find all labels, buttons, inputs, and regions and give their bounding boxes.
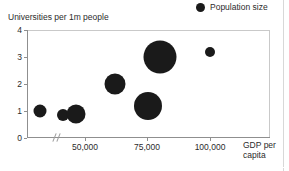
x-axis-line [27, 137, 270, 138]
page-border-bottom [0, 167, 289, 168]
plot-area: 0 1 2 3 4 50,000 75,000 100,000 [27, 30, 270, 138]
y-tick-1 [24, 111, 27, 112]
bubble-point[interactable] [134, 92, 162, 120]
x-tick-label-50000: 50,000 [72, 143, 98, 152]
bubble-point[interactable] [67, 104, 86, 123]
chart-legend: Population size [196, 0, 268, 15]
y-tick-label-3: 3 [17, 53, 22, 62]
y-tick-3 [24, 57, 27, 58]
x-tick-100000 [210, 138, 211, 141]
x-tick-50000 [85, 138, 86, 141]
chart-canvas: Population size Universities per 1m peop… [0, 0, 289, 171]
plot-frame-top [27, 30, 270, 31]
x-tick-75000 [147, 138, 148, 141]
y-axis-line [27, 30, 28, 138]
y-axis-title: Universities per 1m people [8, 12, 109, 22]
y-tick-0 [24, 138, 27, 139]
y-tick-label-2: 2 [17, 80, 22, 89]
x-tick-label-75000: 75,000 [134, 143, 160, 152]
y-tick-2 [24, 84, 27, 85]
y-tick-label-1: 1 [17, 107, 22, 116]
y-tick-label-4: 4 [17, 26, 22, 35]
x-axis-title: GDP per capita [243, 140, 287, 160]
bubble-point[interactable] [205, 47, 215, 57]
bubble-point[interactable] [34, 105, 47, 118]
bubble-point[interactable] [144, 41, 177, 74]
y-tick-4 [24, 30, 27, 31]
x-axis-break-icon [52, 133, 62, 142]
legend-label-population-size: Population size [210, 3, 268, 12]
bubble-point[interactable] [105, 74, 126, 95]
x-tick-label-100000: 100,000 [195, 143, 226, 152]
filled-circle-icon [196, 3, 205, 12]
y-tick-label-0: 0 [17, 134, 22, 143]
plot-frame-right [269, 30, 270, 138]
